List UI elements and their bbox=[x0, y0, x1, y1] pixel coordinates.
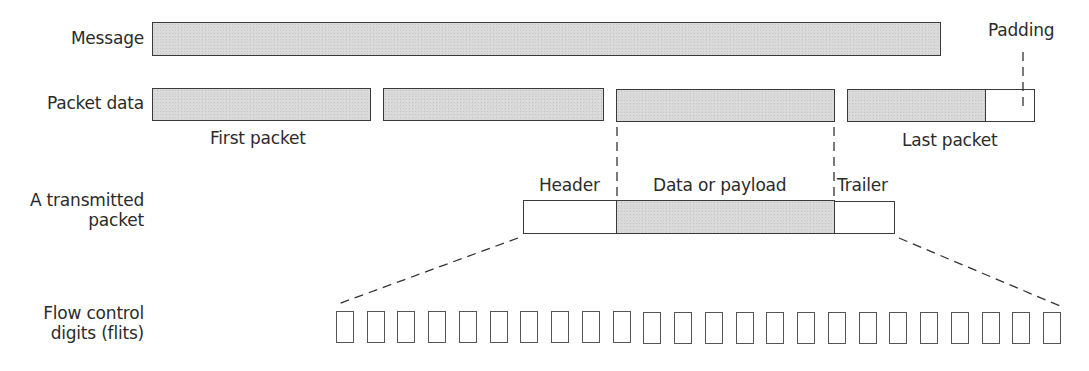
message-bar bbox=[152, 22, 941, 56]
trailer-segment bbox=[834, 201, 895, 234]
label-data-or-payload: Data or payload bbox=[653, 175, 786, 195]
label-transmitted-packet-line1: A transmitted bbox=[0, 190, 144, 210]
label-header: Header bbox=[539, 175, 600, 195]
flit bbox=[490, 311, 508, 343]
label-message: Message bbox=[20, 28, 144, 48]
flit bbox=[797, 312, 815, 344]
flit bbox=[859, 312, 877, 344]
flit bbox=[520, 311, 538, 343]
flit bbox=[889, 312, 907, 344]
label-flits-line1: Flow control bbox=[0, 303, 144, 323]
flit bbox=[367, 311, 385, 343]
flit bbox=[1012, 312, 1030, 344]
flit bbox=[582, 311, 600, 343]
flits-right-expansion-line bbox=[899, 238, 1060, 306]
last-packet-padding-box bbox=[985, 89, 1035, 122]
packet-2-box bbox=[383, 88, 604, 121]
flit bbox=[643, 312, 661, 344]
flit bbox=[705, 312, 723, 344]
first-packet-box bbox=[152, 88, 371, 121]
label-padding: Padding bbox=[988, 20, 1054, 40]
flit bbox=[920, 312, 938, 344]
flits-left-expansion-line bbox=[338, 238, 518, 304]
label-last-packet: Last packet bbox=[902, 130, 998, 150]
last-packet-data-box bbox=[847, 89, 987, 122]
flit bbox=[1043, 312, 1061, 344]
flit bbox=[551, 311, 569, 343]
flit bbox=[951, 312, 969, 344]
flit bbox=[397, 311, 415, 343]
label-packet-data: Packet data bbox=[10, 93, 144, 113]
label-transmitted-packet-line2: packet bbox=[0, 210, 144, 230]
label-first-packet: First packet bbox=[210, 128, 306, 148]
payload-segment bbox=[616, 200, 835, 234]
label-flits-line2: digits (flits) bbox=[0, 323, 144, 343]
flit bbox=[736, 312, 754, 344]
flit bbox=[828, 312, 846, 344]
flit bbox=[336, 311, 354, 343]
header-segment bbox=[523, 200, 617, 234]
flit bbox=[982, 312, 1000, 344]
label-trailer: Trailer bbox=[837, 175, 888, 195]
flit bbox=[428, 311, 446, 343]
flit bbox=[613, 311, 631, 343]
packet-structure-diagram: Message Packet data A transmitted packet… bbox=[0, 0, 1089, 371]
packet-3-box bbox=[616, 89, 835, 122]
flit bbox=[766, 312, 784, 344]
flit bbox=[459, 311, 477, 343]
flit bbox=[674, 312, 692, 344]
